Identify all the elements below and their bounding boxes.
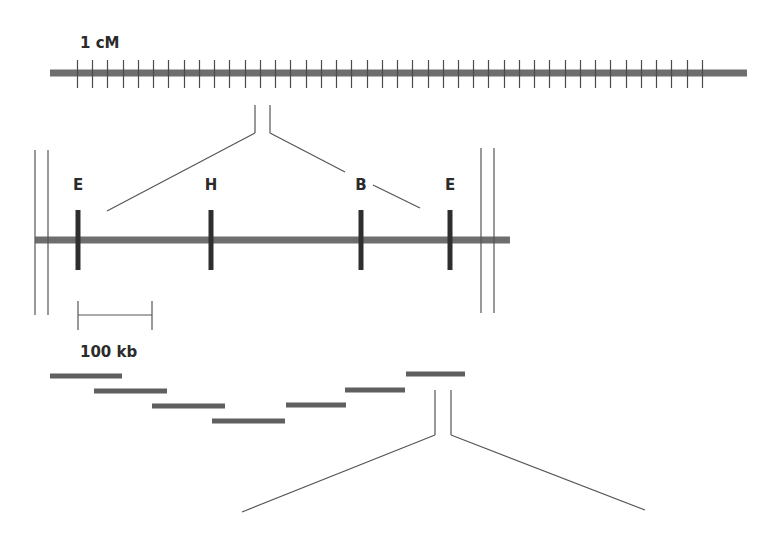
zoom-guide-diagonal — [242, 435, 435, 512]
zoom-guide-diagonal — [373, 185, 420, 208]
diagram-svg: 1 cM EHBE 100 kb — [0, 0, 771, 543]
genetic-scale-label: 1 cM — [80, 34, 119, 52]
scale-bar — [78, 301, 152, 330]
zoom-connector-2 — [242, 390, 645, 512]
contig-clone — [286, 403, 346, 408]
restriction-site-label: E — [445, 176, 455, 194]
contig-clone — [152, 404, 225, 409]
zoom-guide-diagonal — [270, 133, 345, 172]
gene-mapping-diagram: 1 cM EHBE 100 kb — [0, 0, 771, 543]
contig-clone — [212, 419, 285, 424]
contig-clone — [345, 388, 405, 393]
contig-set — [50, 372, 465, 424]
zoom-guide-diagonal — [107, 133, 255, 211]
restriction-map: EHBE — [35, 148, 510, 315]
restriction-site-label: H — [205, 176, 218, 194]
restriction-site-label: B — [355, 176, 366, 194]
contig-clone — [94, 389, 167, 394]
restriction-site-label: E — [73, 176, 83, 194]
chromosome-bar — [50, 70, 747, 77]
contig-clone — [50, 374, 122, 379]
zoom-guide-diagonal — [451, 435, 645, 510]
contig-clone — [406, 372, 465, 377]
scale-bar-label: 100 kb — [80, 343, 138, 361]
physical-map-bar — [35, 237, 510, 244]
genetic-map — [50, 60, 747, 88]
zoom-connector-1 — [107, 105, 420, 211]
